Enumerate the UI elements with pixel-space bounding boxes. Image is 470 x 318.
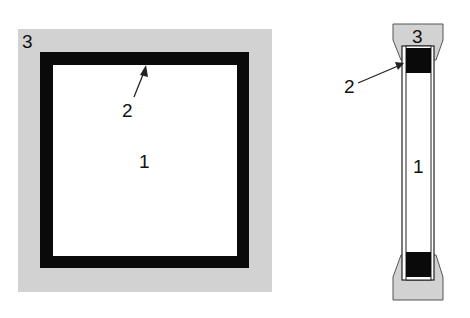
front-label-3: 3 <box>22 31 33 52</box>
front-label-2: 2 <box>122 100 133 121</box>
side-label-3: 3 <box>412 26 423 47</box>
side-black-block-bottom <box>406 252 431 277</box>
side-black-block-top <box>406 48 431 73</box>
front-label-1: 1 <box>139 151 150 172</box>
front-view: 3 2 1 <box>18 29 272 292</box>
side-label-1: 1 <box>413 156 424 177</box>
diagram-canvas: 3 2 1 3 2 1 <box>0 0 470 318</box>
side-view: 3 2 1 <box>344 24 443 300</box>
side-arrow-line <box>358 66 398 83</box>
side-label-2: 2 <box>344 76 355 97</box>
